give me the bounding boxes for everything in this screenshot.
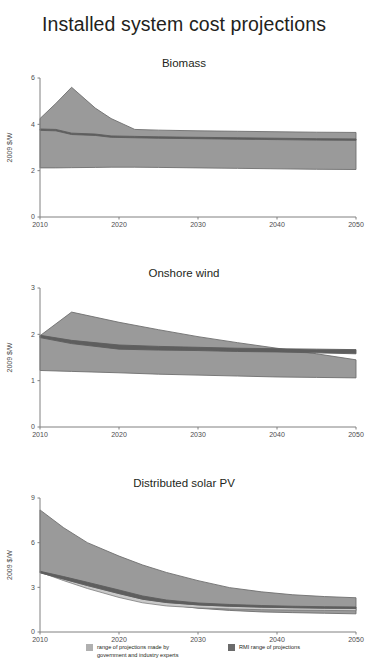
x-tick-label: 2010 [32, 431, 48, 438]
chart-svg-1: 0123201020202030204020502009 $/W [0, 280, 368, 445]
chart-panel-distributed-solar-pv: Distributed solar PV 0369201020202030204… [0, 477, 368, 650]
x-tick-label: 2020 [111, 431, 127, 438]
chart-subtitle-onshore-wind: Onshore wind [0, 267, 368, 280]
x-tick-label: 2020 [111, 221, 127, 228]
chart-subtitle-biomass: Biomass [0, 57, 368, 70]
x-tick-label: 2030 [190, 431, 206, 438]
y-tick-label: 0 [31, 628, 35, 635]
y-tick-label: 2 [31, 330, 35, 337]
plot-area-distributed-solar-pv: 0369201020202030204020502009 $/W [0, 490, 368, 650]
x-tick-label: 2050 [348, 431, 364, 438]
chart-panel-biomass: Biomass 0246201020202030204020502009 $/W [0, 57, 368, 235]
chart-subtitle-distributed-solar-pv: Distributed solar PV [0, 477, 368, 490]
x-tick-label: 2050 [348, 221, 364, 228]
expert-range-band [40, 87, 356, 169]
legend-item-rmi-range: RMI range of projections [228, 643, 300, 651]
x-tick-label: 2030 [190, 221, 206, 228]
y-tick-label: 2 [31, 167, 35, 174]
y-axis-title: 2009 $/W [6, 132, 13, 162]
y-axis-title: 2009 $/W [6, 549, 13, 579]
y-tick-label: 0 [31, 423, 35, 430]
x-tick-label: 2040 [269, 431, 285, 438]
y-tick-label: 6 [31, 74, 35, 81]
chart-panel-onshore-wind: Onshore wind 012320102020203020402050200… [0, 267, 368, 445]
expert-range-swatch [86, 644, 93, 651]
y-tick-label: 9 [31, 494, 35, 501]
y-tick-label: 3 [31, 284, 35, 291]
y-tick-label: 1 [31, 377, 35, 384]
rmi-range-swatch [228, 644, 235, 651]
x-tick-label: 2010 [32, 221, 48, 228]
y-tick-label: 6 [31, 539, 35, 546]
page-title: Installed system cost projections [0, 14, 368, 35]
x-tick-label: 2040 [269, 221, 285, 228]
expert-range-band [40, 510, 356, 614]
legend-label-expert-range: range of projections made by government … [97, 643, 178, 659]
legend: range of projections made by government … [0, 640, 368, 667]
chart-svg-0: 0246201020202030204020502009 $/W [0, 70, 368, 235]
legend-item-expert-range: range of projections made by government … [86, 643, 178, 659]
y-tick-label: 4 [31, 120, 35, 127]
y-tick-label: 0 [31, 213, 35, 220]
legend-label-rmi-range: RMI range of projections [239, 643, 300, 651]
chart-svg-2: 0369201020202030204020502009 $/W [0, 490, 368, 650]
plot-area-onshore-wind: 0123201020202030204020502009 $/W [0, 280, 368, 445]
y-tick-label: 3 [31, 583, 35, 590]
plot-area-biomass: 0246201020202030204020502009 $/W [0, 70, 368, 235]
y-axis-title: 2009 $/W [6, 342, 13, 372]
